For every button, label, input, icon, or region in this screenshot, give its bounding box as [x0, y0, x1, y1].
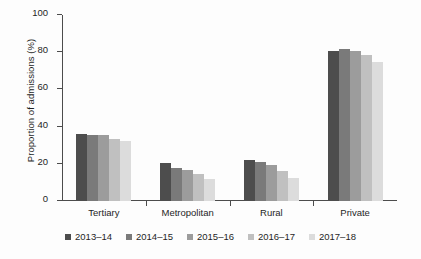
- legend-swatch-icon-4: [309, 234, 315, 240]
- bar-metropolitan-2013-14: [160, 163, 171, 201]
- y-axis-title: Proportion of admissions (%): [25, 11, 36, 191]
- legend-swatch-icon-2: [187, 234, 193, 240]
- x-category-label-rural: Rural: [230, 207, 314, 218]
- legend-label-2014-15: 2014–15: [136, 231, 173, 242]
- y-tick-label-0: 0: [43, 193, 48, 204]
- bar-tertiary-2017-18: [120, 141, 131, 201]
- bar-chart-figure: Proportion of admissions (%) 02040608010…: [0, 0, 421, 259]
- bar-private-2016-17: [361, 55, 372, 201]
- legend-label-2015-16: 2015–16: [197, 231, 234, 242]
- legend-item-2014-15[interactable]: 2014–15: [126, 231, 173, 242]
- x-category-label-private: Private: [313, 207, 397, 218]
- bar-metropolitan-2014-15: [171, 168, 182, 201]
- bar-private-2014-15: [339, 49, 350, 201]
- legend-item-2016-17[interactable]: 2016–17: [248, 231, 295, 242]
- legend-item-2015-16[interactable]: 2015–16: [187, 231, 234, 242]
- x-tick-2: [230, 201, 231, 206]
- x-category-label-tertiary: Tertiary: [62, 207, 146, 218]
- y-tick-label-60: 60: [37, 81, 48, 92]
- legend-label-2016-17: 2016–17: [258, 231, 295, 242]
- legend-item-2017-18[interactable]: 2017–18: [309, 231, 356, 242]
- bar-rural-2016-17: [277, 171, 288, 201]
- bar-private-2015-16: [350, 51, 361, 201]
- legend-swatch-icon-3: [248, 234, 254, 240]
- y-tick-label-20: 20: [37, 156, 48, 167]
- bar-rural-2014-15: [255, 162, 266, 201]
- x-tick-1: [146, 201, 147, 206]
- bar-rural-2017-18: [288, 178, 299, 201]
- bar-metropolitan-2017-18: [204, 179, 215, 201]
- y-tick-label-80: 80: [37, 44, 48, 55]
- x-tick-3: [313, 201, 314, 206]
- bar-group-rural: [230, 15, 314, 201]
- legend-item-2013-14[interactable]: 2013–14: [65, 231, 112, 242]
- y-tick-label-40: 40: [37, 119, 48, 130]
- plot-area: 020406080100: [62, 15, 397, 201]
- bar-rural-2013-14: [244, 160, 255, 201]
- bar-metropolitan-2015-16: [182, 170, 193, 201]
- legend-swatch-icon-1: [126, 234, 132, 240]
- legend-label-2017-18: 2017–18: [319, 231, 356, 242]
- y-tick-label-100: 100: [32, 7, 48, 18]
- legend-swatch-icon-0: [65, 234, 71, 240]
- bar-private-2013-14: [328, 51, 339, 201]
- bar-group-metropolitan: [146, 15, 230, 201]
- bars-layer: [62, 15, 397, 201]
- bar-rural-2015-16: [266, 165, 277, 201]
- bar-group-tertiary: [62, 15, 146, 201]
- bar-group-private: [313, 15, 397, 201]
- bar-metropolitan-2016-17: [193, 174, 204, 201]
- legend-label-2013-14: 2013–14: [75, 231, 112, 242]
- bar-tertiary-2015-16: [98, 135, 109, 201]
- bar-tertiary-2016-17: [109, 139, 120, 201]
- x-category-label-metropolitan: Metropolitan: [146, 207, 230, 218]
- bar-tertiary-2014-15: [87, 135, 98, 201]
- bar-private-2017-18: [372, 62, 383, 201]
- chart-legend: 2013–142014–152015–162016–172017–18: [0, 231, 421, 242]
- bar-tertiary-2013-14: [76, 134, 87, 201]
